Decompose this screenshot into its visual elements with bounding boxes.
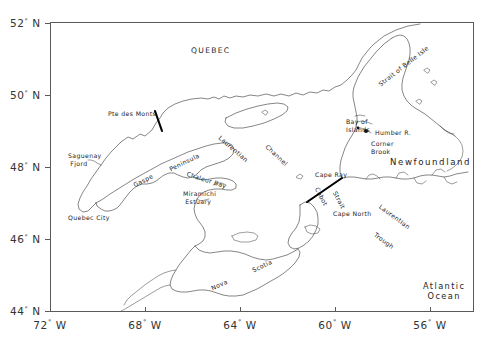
x-axis-tick-64 xyxy=(240,307,241,312)
x-axis-tick-68 xyxy=(145,307,146,312)
x-axis-tick-56 xyxy=(430,307,431,312)
map-label-pte-des-monts: Pte des Monts xyxy=(108,110,156,118)
map-label-newfoundland: Newfoundland xyxy=(390,157,471,168)
map-label-miramichi-estuary: Miramichi Estuary xyxy=(183,190,216,206)
x-axis-label-72: 72° W xyxy=(33,318,66,331)
x-axis-label-56: 56° W xyxy=(413,318,446,331)
y-axis-label-48: 48° N xyxy=(10,161,41,174)
map-label-cape-north: Cape North xyxy=(333,210,372,218)
y-axis-tick-44 xyxy=(45,311,50,312)
y-axis-tick-50 xyxy=(45,95,50,96)
map-figure: 72° W68° W64° W60° W56° W52° N50° N48° N… xyxy=(0,0,489,343)
x-axis-tick-60 xyxy=(335,307,336,312)
map-label-humber-river: Humber R. xyxy=(375,129,411,137)
y-axis-tick-52 xyxy=(45,23,50,24)
map-label-cape-ray: Cape Ray xyxy=(315,171,347,179)
y-axis-tick-46 xyxy=(45,239,50,240)
x-axis-label-64: 64° W xyxy=(223,318,256,331)
y-axis-label-44: 44° N xyxy=(10,305,41,318)
map-label-corner-brook: Corner Brook xyxy=(371,140,394,156)
y-axis-tick-48 xyxy=(45,167,50,168)
map-label-quebec-city: Quebec City xyxy=(68,214,110,222)
map-label-saguenay-fjord: Saguenay Fjord xyxy=(68,152,102,168)
map-label-quebec: QUEBEC xyxy=(191,46,230,55)
y-axis-label-52: 52° N xyxy=(10,17,41,30)
y-axis-label-50: 50° N xyxy=(10,89,41,102)
y-axis-label-46: 46° N xyxy=(10,233,41,246)
x-axis-tick-72 xyxy=(50,307,51,312)
x-axis-label-60: 60° W xyxy=(318,318,351,331)
map-label-bay-of-islands: Bay of Islands xyxy=(346,118,370,134)
map-label-atlantic-ocean: Atlantic Ocean xyxy=(423,281,465,302)
x-axis-label-68: 68° W xyxy=(128,318,161,331)
